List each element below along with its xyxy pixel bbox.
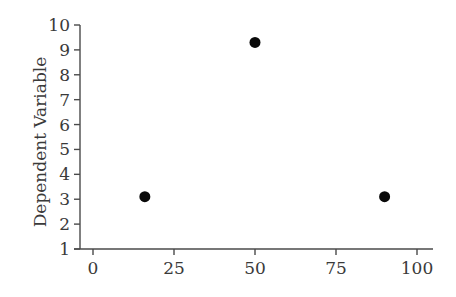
y-tick-label: 7 [59,90,70,110]
y-axis-title: Dependent Variable [30,57,50,228]
data-points [139,37,390,202]
x-tick-label: 100 [401,258,433,278]
x-tick-label: 25 [163,258,185,278]
x-tick-label: 50 [244,258,266,278]
y-tick-label: 9 [59,40,70,60]
y-tick-label: 4 [59,164,70,184]
y-tick-label: 6 [59,115,70,135]
y-tick-label: 3 [59,189,70,209]
y-tick-label: 5 [59,139,70,159]
y-axis: 12345678910 [48,15,80,259]
data-point [379,191,390,202]
data-point [250,37,261,48]
scatter-chart: 12345678910 0255075100 Dependent Variabl… [0,0,456,297]
y-tick-label: 10 [48,15,70,35]
data-point [139,191,150,202]
x-tick-label: 0 [88,258,99,278]
x-tick-label: 75 [325,258,347,278]
x-axis: 0255075100 [74,249,433,278]
y-tick-label: 8 [59,65,70,85]
y-tick-label: 2 [59,214,70,234]
y-tick-label: 1 [59,239,70,259]
